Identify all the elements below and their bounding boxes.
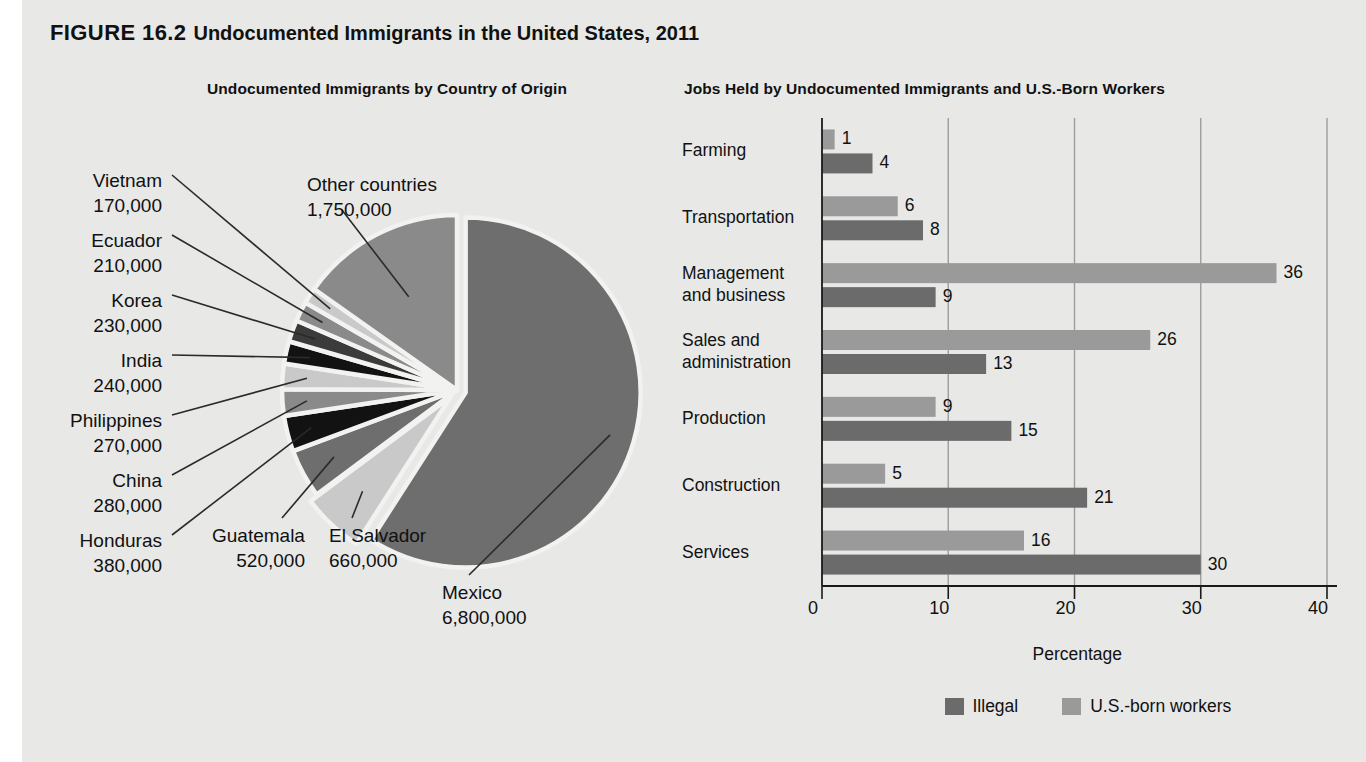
pie-slices <box>282 215 641 568</box>
bar-value-label: 16 <box>1031 530 1050 551</box>
bar-value-label: 6 <box>905 195 915 216</box>
pie-label-china-value: 280,000 <box>22 493 162 518</box>
bar-value-label: 13 <box>993 353 1012 374</box>
pie-label-mexico: Mexico 6,800,000 <box>442 580 527 630</box>
pie-label-china-name: China <box>22 468 162 493</box>
pie-label-honduras: Honduras 380,000 <box>22 528 162 578</box>
bar-illegal <box>822 153 873 173</box>
category-label-line: Production <box>682 407 815 429</box>
pie-label-korea: Korea 230,000 <box>22 288 162 338</box>
bar-illegal <box>822 354 986 374</box>
bar-u-s-born-workers <box>822 397 936 417</box>
bar-value-label: 9 <box>943 396 953 417</box>
bar-value-label: 9 <box>943 286 953 307</box>
pie-label-guatemala-name: Guatemala <box>212 523 305 548</box>
pie-label-honduras-value: 380,000 <box>22 553 162 578</box>
pie-label-other-countries-name: Other countries <box>307 172 437 197</box>
x-tick-label-40: 40 <box>1298 598 1338 619</box>
bar-u-s-born-workers <box>822 531 1024 551</box>
bar-illegal <box>822 220 923 240</box>
bar-u-s-born-workers <box>822 196 898 216</box>
category-label-services: Services <box>682 541 815 563</box>
pie-leader-line <box>172 235 323 322</box>
category-label-line: Transportation <box>682 206 815 228</box>
category-label-line: Management <box>682 262 815 284</box>
bar-illegal <box>822 287 936 307</box>
bar-chart-legend: IllegalU.S.-born workers <box>945 696 1276 717</box>
bar-value-label: 21 <box>1094 487 1113 508</box>
legend-label: U.S.-born workers <box>1090 696 1231 717</box>
pie-label-other-countries-value: 1,750,000 <box>307 197 437 222</box>
legend-swatch-icon <box>1062 698 1081 715</box>
bar-u-s-born-workers <box>822 263 1277 283</box>
legend-item-u-s-born-workers: U.S.-born workers <box>1062 696 1231 717</box>
bar-chart-subtitle: Jobs Held by Undocumented Immigrants and… <box>684 80 1165 98</box>
category-label-line: Services <box>682 541 815 563</box>
x-tick-label-30: 30 <box>1172 598 1212 619</box>
category-labels: FarmingTransportationManagementand busin… <box>682 108 815 608</box>
bar-value-label: 1 <box>842 128 852 149</box>
pie-label-vietnam: Vietnam 170,000 <box>22 168 162 218</box>
bar-value-label: 4 <box>880 152 890 173</box>
pie-label-el-salvador: El Salvador 660,000 <box>329 523 426 573</box>
pie-label-korea-value: 230,000 <box>22 313 162 338</box>
bar-illegal <box>822 555 1201 575</box>
bar-chart: FarmingTransportationManagementand busin… <box>682 108 1366 748</box>
pie-label-ecuador-name: Ecuador <box>22 228 162 253</box>
category-label-line: administration <box>682 351 815 373</box>
pie-label-india-name: India <box>22 348 162 373</box>
bar-u-s-born-workers <box>822 464 885 484</box>
x-axis-title: Percentage <box>1033 644 1123 665</box>
pie-leader-line <box>172 428 311 535</box>
legend-label: Illegal <box>973 696 1019 717</box>
pie-label-ecuador: Ecuador 210,000 <box>22 228 162 278</box>
category-label-farming: Farming <box>682 139 815 161</box>
pie-label-other-countries: Other countries 1,750,000 <box>307 172 437 222</box>
x-tick-label-10: 10 <box>919 598 959 619</box>
bar-rectangles <box>822 129 1277 574</box>
bar-value-label: 30 <box>1208 554 1227 575</box>
pie-label-honduras-name: Honduras <box>22 528 162 553</box>
pie-label-philippines-value: 270,000 <box>22 433 162 458</box>
bar-value-label: 36 <box>1284 262 1303 283</box>
category-label-production: Production <box>682 407 815 429</box>
category-label-construction: Construction <box>682 474 815 496</box>
x-tick-label-0: 0 <box>793 598 833 619</box>
bar-illegal <box>822 488 1087 508</box>
bar-value-label: 5 <box>892 463 902 484</box>
category-label-sales-and-administration: Sales andadministration <box>682 329 815 373</box>
pie-label-india: India 240,000 <box>22 348 162 398</box>
legend-swatch-icon <box>945 698 964 715</box>
pie-label-el-salvador-value: 660,000 <box>329 548 426 573</box>
bar-u-s-born-workers <box>822 129 835 149</box>
pie-label-ecuador-value: 210,000 <box>22 253 162 278</box>
pie-label-vietnam-name: Vietnam <box>22 168 162 193</box>
bar-illegal <box>822 421 1011 441</box>
pie-label-el-salvador-name: El Salvador <box>329 523 426 548</box>
category-label-line: Sales and <box>682 329 815 351</box>
pie-label-vietnam-value: 170,000 <box>22 193 162 218</box>
bar-value-label: 26 <box>1157 329 1176 350</box>
category-label-line: and business <box>682 284 815 306</box>
pie-label-india-value: 240,000 <box>22 373 162 398</box>
pie-chart: Vietnam 170,000 Ecuador 210,000 Korea 23… <box>22 0 712 700</box>
pie-label-guatemala-value: 520,000 <box>212 548 305 573</box>
category-label-line: Construction <box>682 474 815 496</box>
pie-label-philippines: Philippines 270,000 <box>22 408 162 458</box>
bar-value-label: 15 <box>1018 420 1037 441</box>
category-label-line: Farming <box>682 139 815 161</box>
x-tick-label-20: 20 <box>1046 598 1086 619</box>
pie-leader-line <box>172 295 315 339</box>
bar-value-label: 8 <box>930 219 940 240</box>
figure-panel: FIGURE 16.2Undocumented Immigrants in th… <box>22 0 1366 762</box>
pie-label-mexico-value: 6,800,000 <box>442 605 527 630</box>
pie-label-guatemala: Guatemala 520,000 <box>212 523 305 573</box>
pie-label-philippines-name: Philippines <box>22 408 162 433</box>
category-label-management-and-business: Managementand business <box>682 262 815 306</box>
bar-u-s-born-workers <box>822 330 1150 350</box>
legend-item-illegal: Illegal <box>945 696 1019 717</box>
category-label-transportation: Transportation <box>682 206 815 228</box>
bar-gridlines <box>948 118 1327 586</box>
pie-label-china: China 280,000 <box>22 468 162 518</box>
pie-label-korea-name: Korea <box>22 288 162 313</box>
